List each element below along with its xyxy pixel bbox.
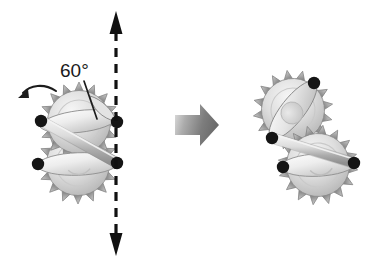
diagram-canvas: 60°	[0, 0, 384, 263]
right-lower-left-pivot	[277, 161, 289, 173]
angle-label: 60°	[60, 60, 89, 81]
gear-mechanism-diagram: 60°	[0, 0, 384, 263]
right-lower-right-pivot	[348, 157, 360, 169]
left-lower-left-pivot	[32, 158, 44, 170]
left-upper-left-pivot	[35, 115, 47, 127]
right-upper-left-pivot	[266, 132, 278, 144]
right-upper-right-pivot	[308, 77, 320, 89]
